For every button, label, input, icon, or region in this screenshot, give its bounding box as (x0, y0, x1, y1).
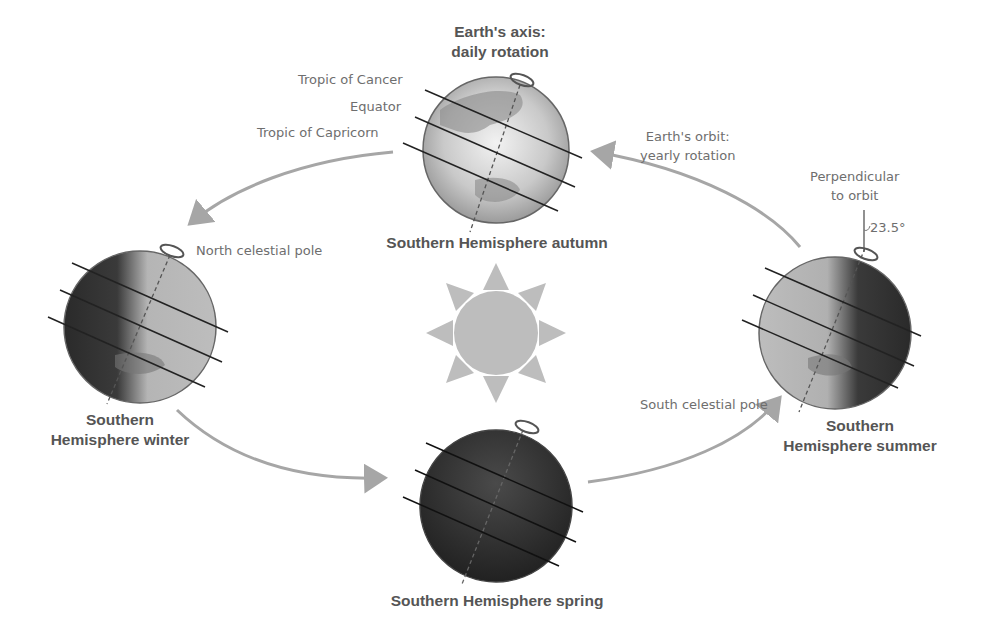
axis-label: Earth's axis: daily rotation (445, 22, 555, 62)
season-label-spring: Southern Hemisphere spring (357, 591, 637, 611)
perpendicular-label: Perpendicular to orbit (810, 167, 899, 205)
tilt-angle-label: 23.5° (870, 218, 905, 237)
globe-summer (742, 210, 921, 412)
seasons-diagram (0, 0, 994, 618)
south-celestial-pole-label: South celestial pole (640, 395, 768, 414)
season-label-summer: Southern Hemisphere summer (770, 416, 950, 456)
globe-winter (48, 242, 228, 404)
orbit-label: Earth's orbit: yearly rotation (640, 127, 735, 165)
sun-icon (426, 263, 566, 403)
season-label-winter: Southern Hemisphere winter (40, 410, 200, 450)
globe-autumn (403, 71, 582, 232)
orbit-arrow-winter-to-spring (177, 410, 382, 478)
equator-label: Equator (350, 97, 401, 116)
season-label-autumn: Southern Hemisphere autumn (357, 233, 637, 253)
tropic-of-cancer-label: Tropic of Cancer (298, 70, 403, 89)
globe-spring (403, 418, 583, 584)
orbit-arrow-autumn-to-winter (192, 152, 393, 222)
north-celestial-pole-label: North celestial pole (196, 241, 322, 260)
tropic-of-capricorn-label: Tropic of Capricorn (257, 123, 379, 142)
